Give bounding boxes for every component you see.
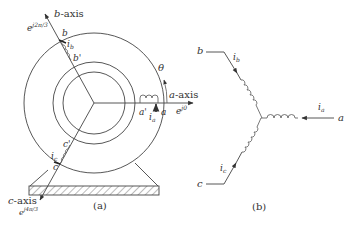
c-axis-phasor: ej4π/3 (19, 206, 38, 217)
b-axis-phasor: ej2π/3 (27, 21, 48, 33)
current-ib-label-b: ib (233, 52, 240, 63)
caption-b: (b) (252, 201, 266, 212)
b-axis-label: b-axis (54, 8, 84, 19)
b-axis-arrow (45, 14, 94, 103)
figure-b: b ib c ic a ia (b) (197, 45, 344, 212)
current-ia-label: ia (149, 112, 156, 123)
machine-base (29, 163, 159, 195)
branch-c (206, 118, 261, 184)
current-ib-label: ib (67, 39, 74, 50)
figure-a: θ a-axis ej0 a' a ia b-axis ej2π/3 b ib … (8, 8, 198, 217)
winding-b-start-label: b (62, 28, 68, 38)
terminal-a-label: a (338, 112, 344, 123)
theta-label: θ (158, 62, 164, 73)
theta-arrow (164, 80, 167, 103)
stator-winding-diagram: θ a-axis ej0 a' a ia b-axis ej2π/3 b ib … (0, 0, 350, 229)
branch-a (261, 115, 334, 119)
current-ia-label-b: ia (318, 102, 325, 113)
base-slab (29, 186, 159, 195)
current-ic-label-b: ic (220, 163, 227, 174)
a-axis-label: a-axis (169, 89, 198, 100)
a-axis-phasor: ej0 (176, 104, 187, 116)
c-axis-label: c-axis (8, 195, 37, 206)
winding-c-start-label: c (53, 162, 58, 172)
winding-b-end-label: b' (73, 53, 81, 63)
caption-a: (a) (93, 200, 107, 211)
winding-a-end-label: a' (139, 107, 147, 117)
winding-a-start-label: a (161, 107, 166, 117)
terminal-c-label: c (197, 178, 203, 189)
winding-c-end-label: c' (63, 139, 71, 149)
terminal-b-label: b (197, 45, 203, 56)
current-ic-label: ic (51, 151, 58, 162)
